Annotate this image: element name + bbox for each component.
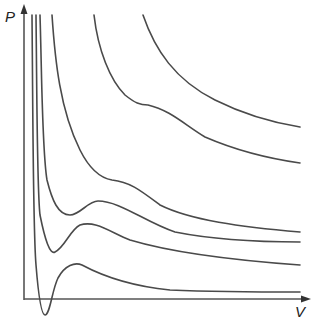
- isotherm-4: [40, 15, 300, 242]
- p-axis-arrow-icon: [21, 4, 28, 14]
- isotherm-1: [143, 15, 300, 127]
- v-axis-label: V: [295, 303, 305, 320]
- isotherm-3: [52, 15, 300, 232]
- pv-diagram: [0, 0, 319, 332]
- isotherms: [32, 15, 300, 315]
- v-axis-arrow-icon: [301, 296, 311, 303]
- p-axis-label: P: [5, 8, 15, 25]
